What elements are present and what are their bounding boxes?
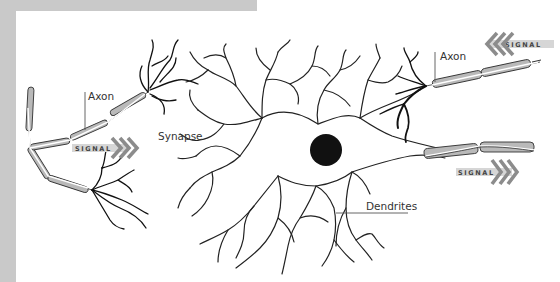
right-top-axon bbox=[426, 59, 541, 88]
signal-arrow-bottom-right: SIGNAL bbox=[456, 160, 517, 184]
left-axon-terminal-lower bbox=[92, 146, 148, 229]
signal-label-top-right: SIGNAL bbox=[505, 41, 542, 49]
label-dendrites-group: Dendrites bbox=[336, 200, 417, 213]
signal-label-bottom-right: SIGNAL bbox=[458, 169, 495, 177]
label-synapse: Synapse bbox=[158, 130, 203, 142]
left-axon-terminal-upper bbox=[140, 40, 198, 114]
neuron-diagram: Axon Axon Synapse Dendrites SIGNAL SIGNA… bbox=[0, 0, 560, 282]
label-axon-right: Axon bbox=[440, 50, 466, 62]
cell-body bbox=[262, 112, 445, 186]
signal-label-left: SIGNAL bbox=[75, 145, 112, 153]
right-axon-terminal bbox=[380, 48, 426, 142]
dendrites bbox=[178, 40, 420, 274]
nucleus bbox=[310, 134, 342, 166]
label-dendrites: Dendrites bbox=[366, 200, 417, 212]
signal-arrow-top-right: SIGNAL bbox=[487, 33, 554, 55]
label-axon-left: Axon bbox=[88, 90, 114, 102]
right-bottom-axon bbox=[424, 142, 534, 159]
signal-arrow-left: SIGNAL bbox=[72, 138, 137, 158]
